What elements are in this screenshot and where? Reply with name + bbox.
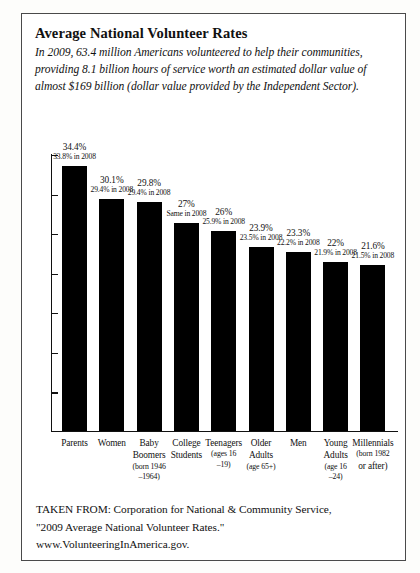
y-axis-tick: [51, 195, 58, 196]
bar: [249, 247, 274, 431]
page-canvas: Average National Volunteer Rates In 2009…: [0, 0, 420, 573]
bar: [323, 262, 348, 431]
y-axis-tick: [51, 353, 58, 354]
bar-value-2008: 21.5% in 2008: [330, 252, 416, 261]
bar-value-2008: 33.8% in 2008: [32, 153, 118, 162]
bar: [62, 166, 87, 431]
y-axis-tick: [51, 392, 58, 393]
category-sublabel: (age 65+): [230, 462, 292, 472]
bar: [211, 231, 236, 431]
figure-frame: Average National Volunteer Rates In 2009…: [21, 13, 406, 561]
category-sublabel: (born 1946: [118, 462, 180, 472]
source-line-1: TAKEN FROM: Corporation for National & C…: [36, 501, 398, 519]
category-name: Adults: [230, 449, 292, 461]
y-axis-tick: [51, 274, 58, 275]
bar: [137, 202, 162, 431]
source-footer: TAKEN FROM: Corporation for National & C…: [36, 501, 398, 554]
category-name: Millennials: [342, 437, 404, 449]
source-line-3: www.VolunteeringInAmerica.gov.: [36, 536, 398, 554]
bar-value-label: 34.4%33.8% in 2008: [32, 142, 118, 162]
category-sublabel: –24): [305, 472, 367, 482]
bar-value-label: 21.6%21.5% in 2008: [330, 241, 416, 261]
bar: [99, 199, 124, 431]
bar: [286, 252, 311, 431]
y-axis-tick: [51, 313, 58, 314]
y-axis-tick: [51, 234, 58, 235]
bar-chart-plot: 34.4%33.8% in 200830.1%29.4% in 200829.8…: [22, 14, 407, 562]
bar: [174, 223, 199, 431]
x-axis-baseline: [51, 431, 398, 432]
category-sublabel: (born 1982: [342, 449, 404, 459]
source-line-2: "2009 Average National Volunteer Rates.": [36, 519, 398, 537]
category-sublabel: –1964): [118, 472, 180, 482]
bar: [360, 265, 385, 431]
x-axis-category-label: Millennials(born 1982or after): [342, 437, 404, 472]
category-name: or after): [342, 460, 404, 472]
bar-value-label: 29.8%29.4% in 2008: [106, 178, 192, 198]
bar-value-2008: 29.4% in 2008: [106, 189, 192, 198]
